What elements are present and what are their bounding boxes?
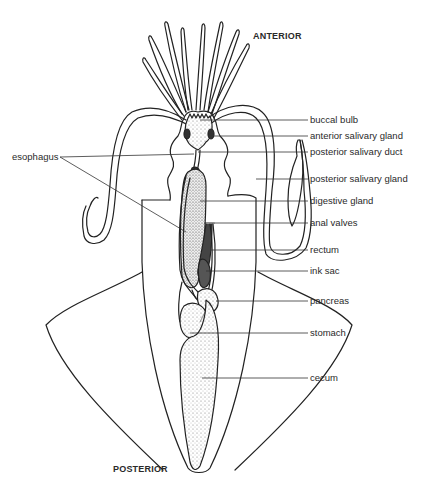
arm-4 — [196, 24, 205, 110]
label-anal-valves: anal valves — [310, 218, 358, 228]
arm-3 — [181, 28, 192, 110]
arm-6 — [208, 30, 239, 114]
tentacle-club — [288, 140, 303, 226]
arm-2 — [165, 22, 189, 112]
label-posterior-salivary-gland: posterior salivary gland — [310, 174, 408, 184]
label-ink-sac: ink sac — [310, 266, 340, 276]
posterior-label: POSTERIOR — [113, 465, 168, 474]
label-posterior-salivary-duct: posterior salivary duct — [310, 147, 402, 157]
arm-5 — [204, 22, 223, 112]
ink-sac-shape — [199, 259, 211, 287]
label-rectum: rectum — [310, 245, 339, 255]
left-fin — [46, 272, 163, 470]
label-anterior-salivary-gland: anterior salivary gland — [310, 131, 403, 141]
squid-illustration — [0, 0, 427, 488]
anterior-label: ANTERIOR — [253, 32, 302, 41]
anterior-salivary-gland-right — [208, 129, 214, 139]
label-pancreas: pancreas — [310, 296, 349, 306]
squid-anatomy-diagram: ANTERIOR POSTERIOR buccal bulb anterior … — [0, 0, 427, 488]
label-stomach: stomach — [310, 328, 346, 338]
label-buccal-bulb: buccal bulb — [310, 115, 358, 125]
label-cecum: cecum — [310, 373, 338, 383]
label-digestive-gland: digestive gland — [310, 196, 373, 206]
label-esophagus: esophagus — [12, 152, 58, 162]
anterior-salivary-gland-left — [184, 129, 190, 139]
